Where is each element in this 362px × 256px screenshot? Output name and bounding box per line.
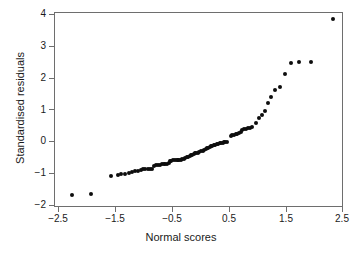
x-tick-label: 1.5	[266, 214, 306, 224]
x-tick-mark	[229, 207, 230, 212]
qq-plot-figure: 4 3 2 1 0 −1 −2 −2.5 −1.5 −0.5 0.5 1.5 2…	[0, 0, 362, 256]
scatter-point	[89, 192, 93, 196]
scatter-point	[254, 121, 258, 125]
scatter-points-layer	[55, 13, 342, 206]
x-tick-mark	[58, 207, 59, 212]
x-tick-label: −0.5	[152, 214, 192, 224]
x-tick-label: 2.5	[322, 214, 362, 224]
x-tick-mark	[172, 207, 173, 212]
scatter-point	[331, 17, 335, 21]
scatter-point	[263, 109, 267, 113]
x-tick-label: 0.5	[209, 214, 249, 224]
scatter-point	[266, 101, 270, 105]
scatter-point	[289, 61, 293, 65]
plot-area	[54, 12, 343, 207]
scatter-point	[278, 85, 282, 89]
x-tick-label: −2.5	[38, 214, 78, 224]
x-tick-mark	[115, 207, 116, 212]
x-tick-mark	[286, 207, 287, 212]
scatter-point	[70, 193, 74, 197]
scatter-point	[250, 125, 254, 129]
x-tick-label: −1.5	[95, 214, 135, 224]
scatter-point	[109, 174, 113, 178]
scatter-point	[225, 140, 229, 144]
x-tick-mark	[342, 207, 343, 212]
scatter-point	[297, 60, 301, 64]
scatter-point	[273, 88, 277, 92]
scatter-point	[269, 95, 273, 99]
y-axis-title: Standardised residuals	[14, 8, 26, 208]
scatter-point	[309, 60, 313, 64]
scatter-point	[283, 72, 287, 76]
scatter-point	[257, 116, 261, 120]
scatter-point	[260, 113, 264, 117]
x-axis-title: Normal scores	[0, 231, 362, 243]
